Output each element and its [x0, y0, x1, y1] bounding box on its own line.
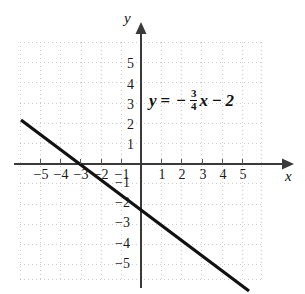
y-tick-label--3: −3 — [104, 216, 130, 230]
x-tick-label-1: 1 — [151, 168, 173, 182]
x-tick-mark — [181, 159, 182, 164]
y-tick-label-2: 2 — [108, 118, 134, 132]
x-tick-mark — [121, 159, 122, 164]
y-tick-label-3: 3 — [108, 98, 134, 112]
fraction-numerator: 3 — [190, 88, 198, 100]
x-axis-label: x — [285, 168, 292, 185]
x-tick-label-5: 5 — [232, 168, 254, 182]
x-tick-mark — [202, 159, 203, 164]
x-tick-mark — [80, 159, 81, 164]
equation-fraction: 3 4 — [190, 88, 198, 112]
x-tick-mark — [40, 159, 41, 164]
x-tick-mark — [161, 159, 162, 164]
x-tick-label-3: 3 — [192, 168, 214, 182]
equation-variable: x — [199, 92, 208, 109]
y-tick-label--1: −1 — [104, 176, 130, 190]
equation-annotation: y = − 3 4 x − 2 — [148, 88, 235, 112]
x-tick-mark — [242, 159, 243, 164]
y-tick-label--2: −2 — [104, 196, 130, 210]
x-tick-label--5: −5 — [30, 168, 52, 182]
fraction-denominator: 4 — [190, 100, 198, 113]
y-tick-label-1: 1 — [108, 138, 134, 152]
y-axis — [140, 26, 142, 288]
y-tick-label-5: 5 — [108, 57, 134, 71]
equation-constant: 2 — [226, 92, 235, 109]
x-tick-mark — [101, 159, 102, 164]
x-tick-label--3: −3 — [70, 168, 92, 182]
x-tick-mark — [60, 159, 61, 164]
x-tick-label-4: 4 — [212, 168, 234, 182]
y-tick-label--4: −4 — [104, 237, 130, 251]
y-tick-label-4: 4 — [108, 78, 134, 92]
equation-equals: = — [161, 92, 171, 109]
x-tick-mark — [222, 159, 223, 164]
y-tick-label--5: −5 — [104, 257, 130, 271]
equation-minus-sign-1: − — [176, 92, 186, 109]
equation-lhs: y — [149, 92, 157, 109]
equation-minus-sign-2: − — [212, 92, 222, 109]
y-axis-label: y — [124, 10, 131, 27]
linear-equation-graph: −5 −4 −3 −2 −1 1 2 3 4 5 5 4 3 2 1 −1 −2… — [0, 0, 305, 294]
x-tick-label--4: −4 — [50, 168, 72, 182]
x-tick-label-2: 2 — [171, 168, 193, 182]
